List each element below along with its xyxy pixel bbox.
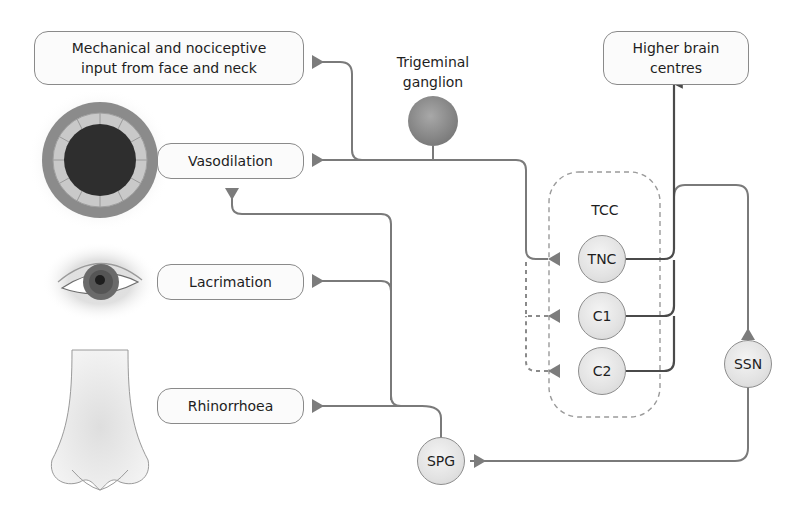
input-box: Mechanical and nociceptive input from fa… — [34, 31, 304, 85]
trigeminal-ganglion-node — [408, 96, 458, 146]
tcc-label: TCC — [570, 200, 640, 220]
arrow-spg-ssn — [474, 454, 486, 468]
higher-brain-box: Higher brain centres — [603, 31, 749, 85]
c2-node: C2 — [578, 347, 626, 395]
rhinorrhoea-box: Rhinorrhoea — [157, 388, 304, 424]
c1-label: C1 — [593, 308, 612, 324]
vasodilation-label: Vasodilation — [188, 151, 273, 171]
c2-label: C2 — [593, 363, 612, 379]
arrow-to-input — [312, 55, 324, 69]
arrow-to-rhinorrhoea — [312, 399, 324, 413]
lacrimation-label: Lacrimation — [189, 272, 272, 292]
vasodilation-box: Vasodilation — [157, 143, 304, 179]
nose-icon — [51, 350, 148, 490]
ssn-label: SSN — [734, 356, 762, 372]
c1-node: C1 — [578, 292, 626, 340]
tnc-node: TNC — [578, 235, 626, 283]
arrow-to-vasodilation — [312, 153, 324, 167]
arrow-to-c1 — [548, 309, 560, 323]
ganglion-line-1: Trigeminal — [383, 52, 483, 72]
arrowheads — [225, 55, 755, 468]
input-line-2: input from face and neck — [81, 58, 257, 78]
eye-icon — [42, 242, 158, 322]
trigeminal-ganglion-label: Trigeminal ganglion — [383, 52, 483, 92]
spg-label: SPG — [427, 453, 455, 469]
higher-line-1: Higher brain — [633, 38, 720, 58]
ssn-node: SSN — [724, 340, 772, 388]
spg-node: SPG — [417, 437, 465, 485]
arrow-to-lacrimation — [312, 274, 324, 288]
ganglion-line-2: ganglion — [383, 72, 483, 92]
input-line-1: Mechanical and nociceptive — [72, 38, 267, 58]
trigeminal-autonomic-diagram: Mechanical and nociceptive input from fa… — [0, 0, 803, 515]
blood-vessel-icon — [28, 88, 172, 232]
arrow-to-c2 — [548, 364, 560, 378]
arrow-down-vasodilation — [225, 188, 239, 200]
higher-line-2: centres — [650, 58, 702, 78]
arrow-up-ssn — [741, 328, 755, 340]
tnc-label: TNC — [588, 251, 617, 267]
lacrimation-box: Lacrimation — [157, 264, 304, 300]
rhinorrhoea-label: Rhinorrhoea — [188, 396, 274, 416]
arrow-to-tnc — [548, 252, 560, 266]
